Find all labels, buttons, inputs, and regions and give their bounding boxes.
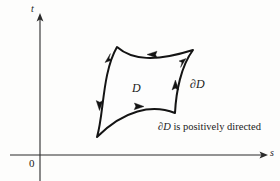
x-axis bbox=[10, 152, 268, 159]
caption-symbol: ∂D bbox=[158, 121, 171, 132]
region-label-D: D bbox=[132, 82, 141, 94]
x-axis-label: s bbox=[270, 148, 274, 158]
caption-text: is positively directed bbox=[171, 121, 261, 132]
origin-label: 0 bbox=[29, 158, 35, 169]
y-axis bbox=[37, 13, 44, 181]
greens-theorem-figure: t s 0 D ∂D ∂D is positively directed bbox=[0, 0, 280, 181]
figure-caption: ∂D is positively directed bbox=[158, 122, 261, 133]
y-axis-label: t bbox=[31, 4, 34, 14]
boundary-label-dD: ∂D bbox=[190, 78, 205, 90]
